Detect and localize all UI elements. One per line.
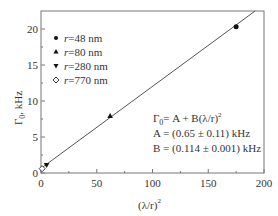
x-tick-label: 150 <box>200 177 217 189</box>
y-tick-label: 20 <box>27 23 39 35</box>
legend-label: r=280 nm <box>64 60 108 72</box>
legend-marker-diamond-icon <box>53 77 59 83</box>
y-tick-label: 10 <box>27 95 39 107</box>
fit-annotation: Γ0= A + B(λ/r)2 A = (0.65 ± 0.11) kHz B … <box>153 111 261 155</box>
legend-label: r=80 nm <box>64 46 103 58</box>
data-point-diamond <box>39 166 45 172</box>
data-point-circle <box>234 24 239 29</box>
legend-marker-circle-icon <box>54 36 58 40</box>
x-axis: 050100150200 <box>38 169 273 189</box>
x-axis-label: (λ/r)2 <box>138 197 161 212</box>
y-tick-label: 15 <box>27 59 39 71</box>
legend-marker-triangle-up-icon <box>54 49 59 54</box>
fit-formula: Γ0= A + B(λ/r)2 <box>153 111 222 127</box>
param-a: A = (0.65 ± 0.11) kHz <box>153 127 250 140</box>
legend-label: r=770 nm <box>64 74 108 86</box>
x-tick-label: 200 <box>256 177 273 189</box>
x-tick-label: 0 <box>38 177 44 189</box>
x-tick-label: 100 <box>144 177 161 189</box>
y-tick-label: 5 <box>33 131 39 143</box>
y-axis: 05101520 <box>27 23 45 179</box>
y-axis-label: Γ0, kHz <box>12 91 27 125</box>
legend-label: r=48 nm <box>64 32 103 44</box>
legend-marker-triangle-down-icon <box>54 64 59 69</box>
legend: r=48 nm r=80 nm r=280 nm r=770 nm <box>53 32 108 86</box>
x-tick-label: 50 <box>91 177 103 189</box>
chart: 05101520 050100150200 r=48 nm r=80 nm r=… <box>0 0 278 216</box>
param-b: B = (0.114 ± 0.001) kHz <box>153 142 261 155</box>
